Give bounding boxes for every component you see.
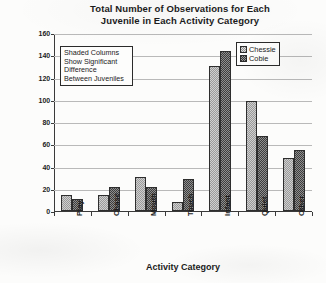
bar-cobie-infant [220,51,231,211]
bar-group [172,34,194,211]
bar-chart-figure: Total Number of Observations for Each Ju… [0,0,326,283]
y-tick-label-0: 0 [24,208,50,215]
x-category-label-chase: Chase [112,193,121,216]
y-tick-mark-20 [51,190,54,191]
x-tick-mark [201,212,202,216]
annotation-box: Shaded Columns Show Significant Differen… [60,46,133,86]
bar-chessie-infant [209,66,220,211]
bar-chessie-play [61,195,72,211]
y-tick-label-100: 100 [24,97,50,104]
bar-chessie-chase [98,195,109,211]
x-tick-mark [128,212,129,216]
bar-chessie-other [283,158,294,211]
chart-title-line-1: Total Number of Observations for Each [46,3,314,15]
legend-item-chessie: Chessie [240,45,276,54]
x-category-label-touch: Touch [186,194,195,216]
x-tick-mark [165,212,166,216]
bar-group [135,34,157,211]
y-tick-label-20: 20 [24,186,50,193]
y-tick-mark-140 [51,56,54,57]
legend-label-chessie: Chessie [249,46,276,54]
x-category-label-other: Other [297,195,306,216]
legend-label-cobie: Cobie [249,55,268,63]
y-tick-mark-120 [51,79,54,80]
x-axis-line [54,211,312,212]
bar-group [283,34,305,211]
bar-group [209,34,231,211]
x-tick-mark [54,212,55,216]
y-tick-label-120: 120 [24,75,50,82]
y-tick-mark-40 [51,168,54,169]
y-tick-mark-100 [51,101,54,102]
x-tick-mark [275,212,276,216]
y-tick-mark-60 [51,145,54,146]
x-tick-mark [312,212,313,216]
legend-item-cobie: Cobie [240,54,276,63]
x-category-label-mouth: Mouth [149,193,158,216]
y-tick-label-160: 160 [24,30,50,37]
legend-swatch-chessie [240,46,247,53]
bar-chessie-touch [172,202,183,211]
bar-chessie-quiet [246,101,257,211]
legend-swatch-cobie [240,55,247,62]
y-tick-label-140: 140 [24,52,50,59]
y-tick-mark-160 [51,34,54,35]
chart-title: Total Number of Observations for Each Ju… [46,3,314,26]
x-tick-mark [238,212,239,216]
bar-chessie-mouth [135,177,146,211]
y-tick-mark-80 [51,123,54,124]
y-tick-label-80: 80 [24,119,50,126]
x-category-label-play: Play [75,200,84,216]
annotation-line-4: Between Juveniles [64,75,129,84]
chart-title-line-2: Juvenile in Each Activity Category [46,15,314,27]
y-tick-label-40: 40 [24,164,50,171]
x-category-label-infant: Infant [223,195,232,216]
chart-legend: Chessie Cobie [236,42,280,66]
x-category-label-quiet: Quiet [260,196,269,216]
x-tick-mark [91,212,92,216]
x-axis-title: Activity Category [54,262,312,272]
y-tick-label-60: 60 [24,141,50,148]
